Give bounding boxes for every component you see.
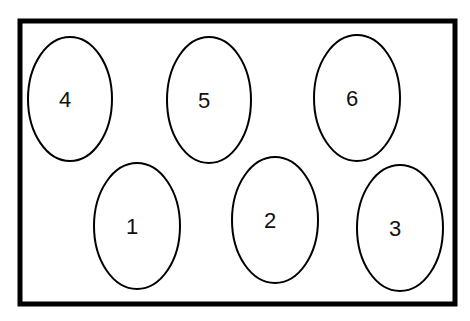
- ellipse-label: 6: [346, 86, 358, 111]
- ellipse-node-3: 3: [357, 165, 443, 291]
- ellipse-node-6: 6: [314, 35, 400, 161]
- ellipse-label: 5: [198, 88, 210, 113]
- ellipse-label: 4: [59, 87, 71, 112]
- ellipse-node-1: 1: [94, 163, 180, 289]
- diagram-canvas: 456123: [0, 0, 470, 321]
- ellipse-node-2: 2: [232, 157, 318, 283]
- ellipse-label: 1: [126, 214, 138, 239]
- outer-frame: [20, 21, 455, 304]
- ellipse-node-4: 4: [28, 37, 112, 161]
- ellipse-node-5: 5: [167, 37, 251, 163]
- ellipse-group: 456123: [28, 35, 443, 291]
- ellipse-label: 2: [264, 208, 276, 233]
- ellipse-label: 3: [389, 216, 401, 241]
